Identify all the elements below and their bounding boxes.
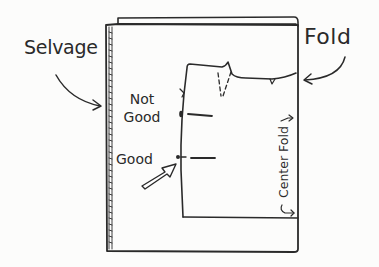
selvage-arrow-icon xyxy=(56,75,101,110)
diagram-canvas: Selvage Fold Not Good Good Center Fold xyxy=(0,0,379,267)
grainline-not-good xyxy=(179,111,212,117)
fold-label: Fold xyxy=(304,26,351,48)
grainline-good xyxy=(176,155,215,159)
selvage-label: Selvage xyxy=(24,38,98,57)
not-good-line-1: Not xyxy=(117,90,167,108)
good-label: Good xyxy=(116,152,153,166)
center-fold-label: Center Fold xyxy=(278,126,291,198)
pointer-arrow-icon xyxy=(142,164,176,189)
not-good-line-2: Good xyxy=(117,108,167,126)
dart xyxy=(218,72,231,96)
fold-arrow-icon xyxy=(304,57,345,84)
selvage-edge xyxy=(109,27,112,249)
not-good-label: Not Good xyxy=(117,90,167,126)
